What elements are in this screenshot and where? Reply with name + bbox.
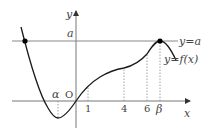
intersection-dot-left: [22, 38, 27, 43]
function-graph: y a O x y=a y=f(x) α 1 4 6 β: [0, 0, 210, 134]
x-tick-alpha: α: [52, 88, 60, 101]
curve-label: y=f(x): [163, 53, 198, 66]
intersection-dot-beta: [157, 38, 162, 43]
y-axis-label: y: [65, 8, 73, 21]
x-tick-1: 1: [85, 103, 91, 114]
x-tick-4: 4: [121, 103, 127, 114]
x-tick-6: 6: [144, 103, 150, 114]
origin-label: O: [65, 89, 73, 100]
x-axis-label: x: [184, 107, 191, 120]
x-tick-beta: β: [155, 103, 162, 116]
line-label: y=a: [178, 35, 201, 48]
y-tick-a: a: [67, 27, 74, 40]
